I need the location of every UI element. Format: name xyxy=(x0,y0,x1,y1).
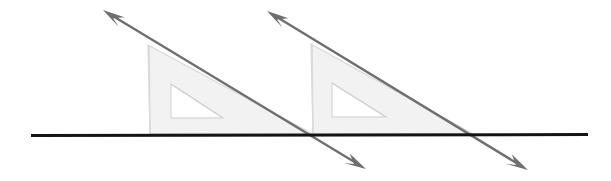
transversal-ray-left-head-arrow-icon xyxy=(103,10,124,27)
set-square-right-vertical-edge xyxy=(312,45,313,134)
set-square-left-vertical-edge xyxy=(149,46,150,134)
geometry-figure xyxy=(0,0,611,181)
horizontal-base-line xyxy=(31,135,588,136)
transversal-ray-right xyxy=(267,11,528,170)
transversal-ray-left-tail-arrow-icon xyxy=(344,153,366,169)
transversal-ray-right-head-arrow-icon xyxy=(267,11,288,28)
figure-canvas xyxy=(0,0,611,181)
transversal-ray-right-tail-arrow-icon xyxy=(506,154,528,170)
